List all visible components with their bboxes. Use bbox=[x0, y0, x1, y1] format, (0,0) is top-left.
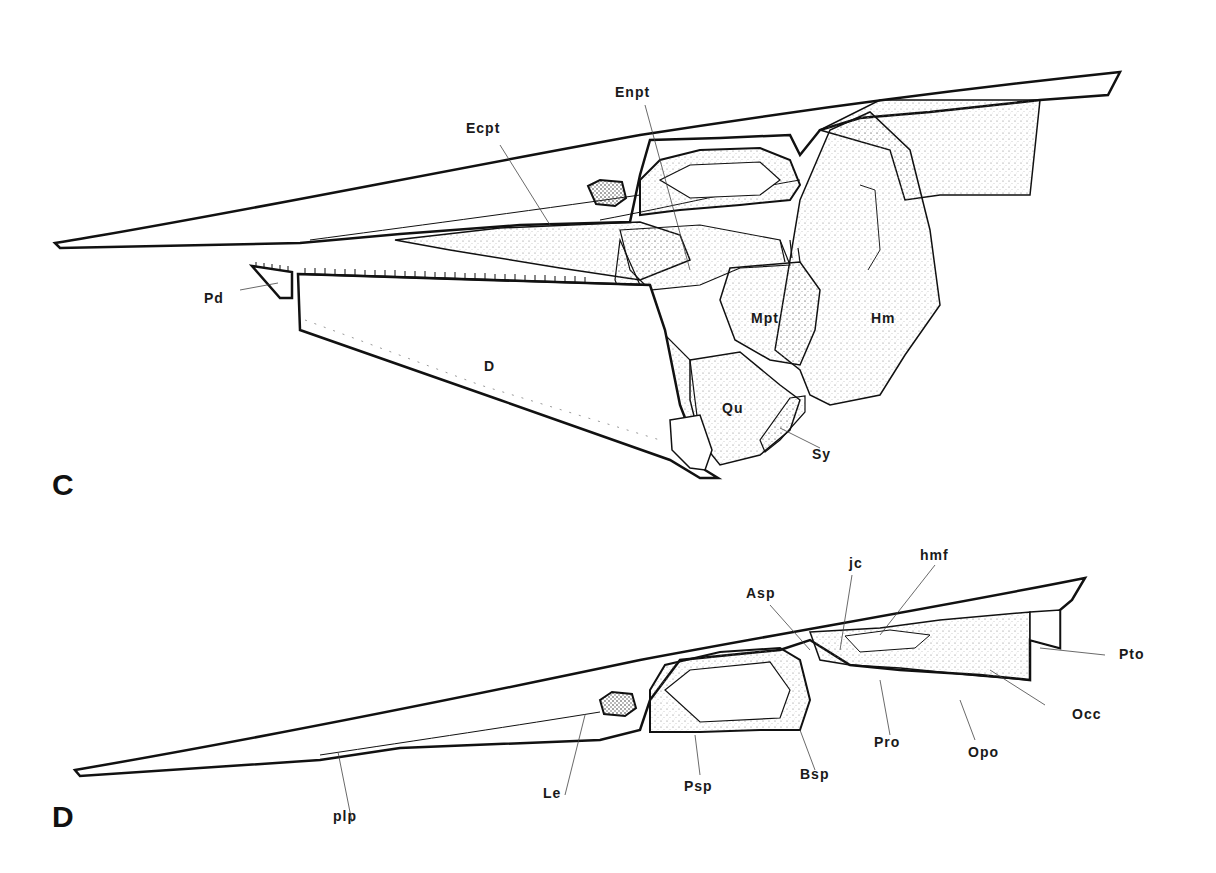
panel-c-drawing bbox=[55, 72, 1120, 478]
label-pd: Pd bbox=[204, 290, 224, 306]
label-asp: Asp bbox=[746, 585, 775, 601]
label-occ: Occ bbox=[1072, 706, 1101, 722]
label-hmf: hmf bbox=[920, 547, 949, 563]
panel-letter-d: D bbox=[52, 800, 74, 834]
label-sy: Sy bbox=[812, 446, 831, 462]
skull-diagram bbox=[0, 0, 1216, 873]
label-enpt: Enpt bbox=[615, 84, 650, 100]
label-plp: plp bbox=[333, 808, 357, 824]
label-d: D bbox=[484, 358, 495, 374]
label-qu: Qu bbox=[722, 400, 743, 416]
label-psp: Psp bbox=[684, 778, 713, 794]
label-jc: jc bbox=[849, 555, 863, 571]
label-pto: Pto bbox=[1119, 646, 1145, 662]
label-pro: Pro bbox=[874, 734, 900, 750]
label-bsp: Bsp bbox=[800, 766, 829, 782]
label-opo: Opo bbox=[968, 744, 999, 760]
label-ecpt: Ecpt bbox=[466, 120, 500, 136]
label-hm: Hm bbox=[871, 310, 896, 326]
label-mpt: Mpt bbox=[751, 310, 779, 326]
panel-d-drawing bbox=[75, 565, 1105, 822]
label-le: Le bbox=[543, 785, 561, 801]
panel-letter-c: C bbox=[52, 468, 74, 502]
